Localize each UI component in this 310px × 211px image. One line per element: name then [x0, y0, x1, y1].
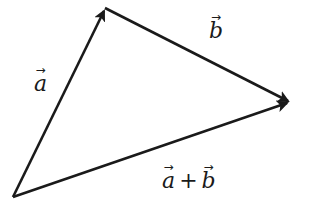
vector-arrow-icon: →: [204, 161, 214, 173]
label-sum-plus: +: [179, 168, 197, 193]
vector-arrow-icon: →: [164, 161, 174, 173]
vector-arrow-icon: →: [211, 11, 221, 23]
vector-diagram: [0, 0, 310, 211]
vector-sum-arrow: [13, 103, 287, 197]
label-vector-b: →b: [209, 20, 223, 42]
label-vector-a: →a: [34, 73, 47, 95]
label-vector-sum: →a+→b: [162, 170, 216, 192]
vector-b-arrow: [105, 8, 288, 101]
vector-arrow-icon: →: [36, 64, 46, 76]
